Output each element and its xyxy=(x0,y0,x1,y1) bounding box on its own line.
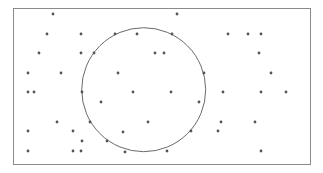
data-point xyxy=(247,33,250,36)
data-point xyxy=(136,33,139,36)
data-point xyxy=(171,33,174,36)
data-point xyxy=(220,121,223,124)
bounding-rectangle xyxy=(14,9,311,165)
data-point xyxy=(114,33,117,36)
data-point xyxy=(154,52,157,55)
data-point xyxy=(117,72,120,75)
data-point xyxy=(52,13,55,16)
data-point xyxy=(100,101,103,104)
data-point xyxy=(217,130,220,133)
data-point xyxy=(163,52,166,55)
data-point xyxy=(260,91,263,94)
point-set xyxy=(27,13,288,154)
data-point xyxy=(80,150,83,153)
data-point xyxy=(33,91,36,94)
data-point xyxy=(147,121,150,124)
data-point xyxy=(106,140,109,143)
data-point xyxy=(81,140,84,143)
enclosing-circle xyxy=(82,28,206,152)
data-point xyxy=(170,91,173,94)
data-point xyxy=(27,91,30,94)
data-point xyxy=(80,52,83,55)
data-point xyxy=(166,150,169,153)
data-point xyxy=(72,130,75,133)
data-point xyxy=(203,72,206,75)
data-point xyxy=(176,13,179,16)
diagram-canvas xyxy=(0,0,323,173)
data-point xyxy=(46,33,49,36)
data-point xyxy=(270,72,273,75)
data-point xyxy=(260,33,263,36)
data-point xyxy=(27,130,30,133)
data-point xyxy=(89,121,92,124)
data-point xyxy=(72,150,75,153)
data-point xyxy=(198,101,201,104)
data-point xyxy=(80,33,83,36)
data-point xyxy=(222,91,225,94)
data-point xyxy=(260,150,263,153)
data-point xyxy=(258,52,261,55)
data-point xyxy=(227,33,230,36)
data-point xyxy=(60,72,63,75)
data-point xyxy=(27,72,30,75)
data-point xyxy=(190,130,193,133)
data-point xyxy=(132,91,135,94)
data-point xyxy=(254,121,257,124)
data-point xyxy=(27,150,30,153)
data-point xyxy=(124,151,127,154)
data-point xyxy=(56,121,59,124)
data-point xyxy=(93,52,96,55)
data-point xyxy=(122,131,125,134)
data-point xyxy=(81,91,84,94)
data-point xyxy=(38,52,41,55)
data-point xyxy=(285,91,288,94)
